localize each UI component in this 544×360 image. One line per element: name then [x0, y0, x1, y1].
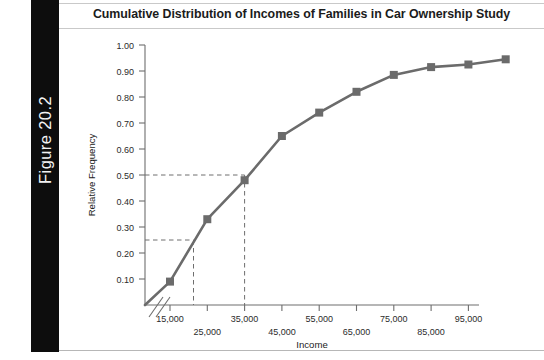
- title-divider-top: [59, 3, 544, 4]
- chart-title: Cumulative Distribution of Incomes of Fa…: [59, 7, 544, 21]
- x-tick-label: 35,000: [231, 314, 259, 324]
- y-tick-label: 0.10: [116, 275, 134, 285]
- chart-panel: Cumulative Distribution of Incomes of Fa…: [59, 0, 544, 352]
- y-tick-label: 1.00: [116, 41, 134, 51]
- y-tick-label: 0.80: [116, 93, 134, 103]
- y-axis-title: Relative Frequency: [86, 133, 97, 216]
- footer-divider: [59, 350, 544, 351]
- data-point-marker: [315, 109, 323, 117]
- x-axis-ticks: [170, 305, 468, 311]
- data-point-marker: [166, 278, 174, 286]
- x-tick-label: 15,000: [156, 314, 184, 324]
- y-tick-label: 0.30: [116, 223, 134, 233]
- x-tick-label: 25,000: [194, 327, 222, 337]
- data-point-marker: [353, 88, 361, 96]
- x-tick-label: 65,000: [343, 327, 371, 337]
- figure-number-label: Figure 20.2: [36, 96, 55, 184]
- y-axis-tick-labels: 1.00 0.90 0.80 0.70 0.60 0.50 0.40 0.30 …: [116, 41, 134, 285]
- y-tick-label: 0.40: [116, 197, 134, 207]
- figure-number-spine: Figure 20.2: [31, 0, 59, 352]
- x-tick-label: 45,000: [268, 327, 296, 337]
- x-axis-tick-labels-lower: 25,000 45,000 65,000 85,000: [194, 327, 445, 337]
- y-tick-label: 0.20: [116, 249, 134, 259]
- data-point-marker: [427, 63, 435, 71]
- chart-plot: 1.00 0.90 0.80 0.70 0.60 0.50 0.40 0.30 …: [59, 29, 544, 349]
- first-quartile-guide-lines: [145, 240, 194, 305]
- x-axis-title: Income: [296, 339, 327, 349]
- y-tick-label: 0.50: [116, 171, 134, 181]
- y-tick-label: 0.90: [116, 67, 134, 77]
- data-point-marker: [278, 132, 286, 140]
- data-point-marker: [241, 176, 249, 184]
- figure-page: Figure 20.2 Cumulative Distribution of I…: [0, 0, 544, 360]
- y-tick-label: 0.70: [116, 119, 134, 129]
- series-line: [145, 59, 506, 305]
- x-tick-label: 75,000: [380, 314, 408, 324]
- data-point-marker: [502, 55, 510, 63]
- x-tick-label: 55,000: [305, 314, 333, 324]
- y-tick-label: 0.60: [116, 145, 134, 155]
- series-markers: [166, 55, 510, 285]
- y-axis-ticks: [139, 45, 145, 279]
- x-axis-tick-labels-upper: 15,000 35,000 55,000 75,000 95,000: [156, 314, 482, 324]
- data-point-marker: [203, 215, 211, 223]
- data-point-marker: [390, 71, 398, 79]
- data-point-marker: [464, 61, 472, 69]
- x-tick-label: 85,000: [417, 327, 445, 337]
- x-tick-label: 95,000: [455, 314, 483, 324]
